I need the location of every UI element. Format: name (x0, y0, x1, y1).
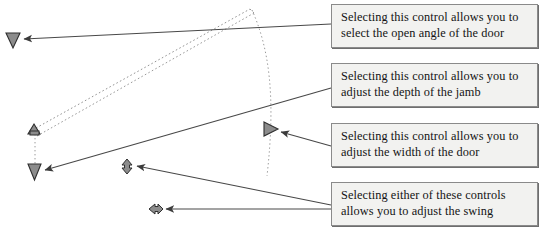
door-swing-arc (252, 10, 271, 176)
leader-lines (24, 24, 331, 209)
callout-door-width-line1: Selecting this control allows you to (341, 129, 533, 145)
callout-door-width: Selecting this control allows you to adj… (331, 123, 538, 167)
swing-grip-down[interactable] (122, 159, 132, 174)
leader-line-jamb-depth (45, 88, 331, 170)
jamb-depth-grip-base[interactable] (30, 131, 39, 135)
leader-line-swing-down (137, 166, 331, 205)
door-panel-edge-lower (37, 13, 254, 136)
callout-jamb-depth: Selecting this control allows you to adj… (331, 63, 538, 107)
leader-line-open-angle (24, 24, 331, 39)
swing-grip-lower[interactable] (28, 164, 41, 180)
callout-door-width-line2: adjust the width of the door (341, 145, 533, 161)
callout-swing: Selecting either of these controls allow… (331, 182, 538, 226)
callout-jamb-depth-line1: Selecting this control allows you to (341, 69, 533, 85)
callout-open-angle: Selecting this control allows you to sel… (331, 4, 538, 48)
callout-open-angle-line1: Selecting this control allows you to (341, 10, 533, 26)
callout-swing-line2: allows you to adjust the swing (341, 204, 533, 220)
control-grips[interactable] (6, 33, 278, 214)
callout-swing-line1: Selecting either of these controls (341, 188, 533, 204)
callout-open-angle-line2: select the open angle of the door (341, 26, 533, 42)
door-panel-edge-upper (36, 9, 250, 128)
door-geometry (35, 9, 271, 176)
annotated-door-diagram: Selecting this control allows you to sel… (0, 0, 542, 237)
leader-line-door-width (281, 132, 331, 146)
open-angle-grip[interactable] (6, 33, 20, 48)
callout-jamb-depth-line2: adjust the depth of the jamb (341, 85, 533, 101)
swing-grip-left[interactable] (149, 204, 163, 214)
